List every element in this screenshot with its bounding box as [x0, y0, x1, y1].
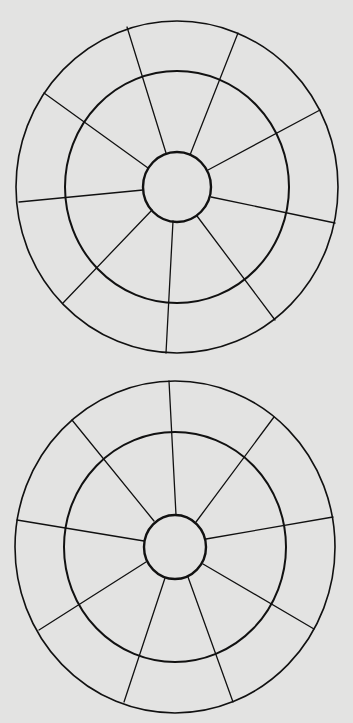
hub-circle	[143, 152, 211, 222]
spoke-line	[39, 562, 146, 630]
wheel-top	[16, 21, 338, 353]
spoke-line	[19, 190, 143, 202]
spoke-line	[166, 221, 173, 353]
middle-ring	[64, 432, 286, 662]
spoke-line	[206, 517, 333, 539]
spoke-line	[72, 420, 154, 521]
spoke-line	[203, 564, 314, 629]
hub-circle	[144, 515, 206, 579]
diagram-canvas	[0, 0, 353, 723]
spoke-line	[63, 210, 152, 303]
spoke-line	[211, 197, 335, 223]
middle-ring	[65, 71, 289, 303]
spoke-line	[17, 520, 144, 541]
spoke-line	[196, 417, 274, 522]
spoke-line	[197, 216, 275, 320]
spoke-line	[127, 27, 166, 153]
spoke-line	[208, 110, 320, 170]
spoke-line	[190, 33, 238, 155]
spoke-line	[188, 577, 233, 702]
wheel-bottom	[15, 381, 335, 713]
spoke-line	[124, 578, 165, 702]
spoke-line	[169, 381, 176, 515]
spoke-line	[44, 93, 148, 168]
